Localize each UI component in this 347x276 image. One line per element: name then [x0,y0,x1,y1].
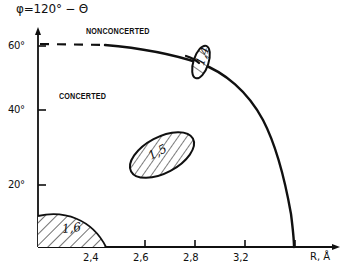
y-tick-label-60: 60° [8,41,25,51]
x-tick-label-2-8: 2,8 [183,253,198,263]
y-axis-arrow [35,27,41,35]
contour-label-16: 1,6 [61,221,81,235]
y-tick-label-40: 40° [8,105,25,115]
y-axis-ticks [38,46,46,185]
x-axis-title: R, Å [310,252,330,262]
x-axis-ticks [95,240,295,247]
region-label-concerted: CONCERTED [59,92,106,101]
y-tick-label-20: 20° [8,180,25,190]
x-tick-label-2-6: 2,6 [133,253,148,263]
figure-title: φ=120° − Θ [16,3,88,15]
region-label-nonconcerted: NONCONCERTED [86,27,150,36]
plot-area [0,0,347,276]
x-axis-arrow [332,244,340,250]
figure-canvas: φ=120° − Θ 60° 40° 20° 2,4 2,6 2,8 3,2 R… [0,0,347,276]
boundary-dashed-segment [40,44,105,45]
x-tick-label-3-2: 3,2 [233,253,248,263]
x-tick-label-2-4: 2,4 [83,253,98,263]
